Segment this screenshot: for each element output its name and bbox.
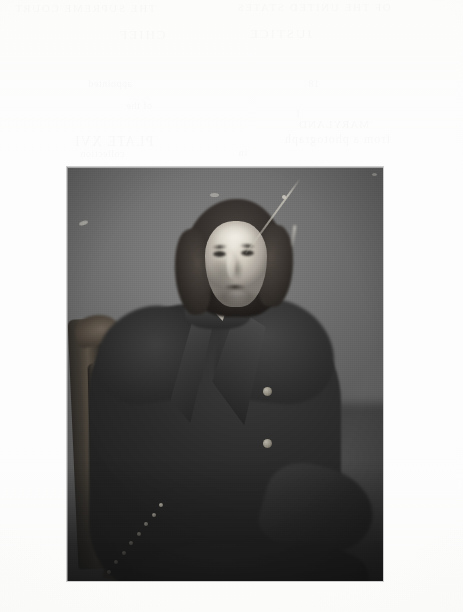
ghost-text-line: CHIEF <box>118 27 166 43</box>
ghost-text-line: of the <box>126 100 152 111</box>
emulsion-speck <box>210 193 219 197</box>
ghost-text-line: 18 <box>308 78 319 89</box>
emulsion-speck <box>372 173 377 176</box>
emulsion-speck <box>282 195 286 199</box>
ghost-text-line: JUSTICE <box>248 26 313 42</box>
ghost-text-line: in <box>238 146 248 158</box>
ghost-text-line: from a photograph <box>284 132 390 147</box>
ghost-text-line: collection <box>80 148 124 159</box>
ghost-text-line: THE SUPREME COURT <box>14 2 155 14</box>
ghost-text-line: appointed <box>88 78 132 89</box>
ghost-text-line: MARYLAND <box>298 118 369 130</box>
scanned-page: THE SUPREME COURT OF THE UNITED STATES C… <box>0 0 463 612</box>
floor-shadow <box>67 465 383 581</box>
ghost-text-line: I <box>296 108 300 119</box>
ghost-text-line: PLATE XVI <box>74 134 153 150</box>
ghost-text-line: OF THE UNITED STATES <box>236 1 391 13</box>
portrait-photograph-plate <box>67 167 383 581</box>
